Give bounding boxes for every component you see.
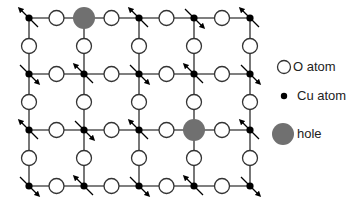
legend-o-atom-label: O atom (293, 60, 336, 74)
legend-o-atom-icon (278, 61, 291, 74)
o-atom (49, 179, 64, 194)
o-atom (132, 95, 147, 110)
legend-hole-icon (272, 123, 294, 145)
hole (183, 119, 205, 141)
o-atom (159, 67, 174, 82)
o-atom (159, 11, 174, 26)
hole (73, 7, 95, 29)
legend-hole-label: hole (297, 127, 322, 141)
o-atom (187, 39, 202, 54)
o-atom (22, 95, 37, 110)
o-atom (243, 151, 258, 166)
oxygen-atoms (22, 11, 258, 194)
o-atom (77, 95, 92, 110)
o-atom (187, 95, 202, 110)
o-atom (215, 11, 230, 26)
o-atom (132, 151, 147, 166)
legend-cu-atom-icon (281, 93, 287, 99)
o-atom (104, 123, 119, 138)
o-atom (159, 179, 174, 194)
o-atom (22, 39, 37, 54)
o-atom (49, 67, 64, 82)
o-atom (215, 179, 230, 194)
cuo2-lattice-diagram (0, 0, 364, 207)
o-atom (243, 39, 258, 54)
o-atom (243, 95, 258, 110)
o-atom (215, 123, 230, 138)
o-atom (77, 151, 92, 166)
o-atom (49, 11, 64, 26)
o-atom (132, 39, 147, 54)
o-atom (77, 39, 92, 54)
o-atom (104, 179, 119, 194)
o-atom (159, 123, 174, 138)
o-atom (104, 67, 119, 82)
o-atom (49, 123, 64, 138)
legend-cu-atom-label: Cu atom (297, 89, 346, 103)
o-atom (104, 11, 119, 26)
o-atom (187, 151, 202, 166)
legend-symbols (272, 61, 294, 146)
o-atom (215, 67, 230, 82)
o-atom (22, 151, 37, 166)
